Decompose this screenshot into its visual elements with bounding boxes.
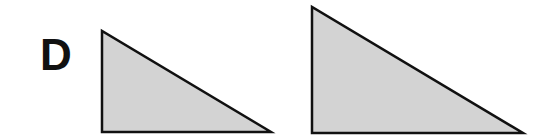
figure-panel-d: D — [0, 0, 539, 135]
large-right-triangle — [312, 7, 523, 133]
triangles-diagram — [0, 0, 539, 135]
small-right-triangle — [102, 31, 271, 132]
